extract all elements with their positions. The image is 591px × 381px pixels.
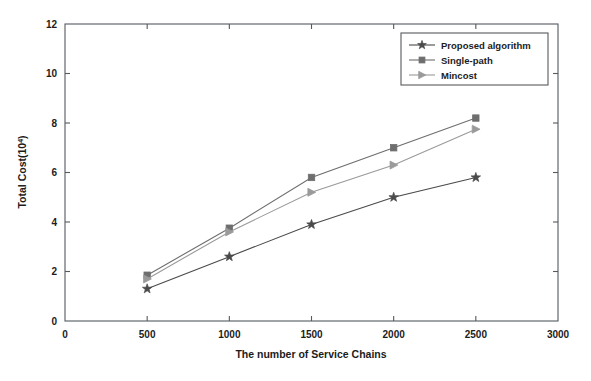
data-point-marker [390, 145, 396, 151]
data-point-marker [419, 57, 425, 63]
y-tick-label: 0 [51, 316, 57, 327]
line-chart: 050010001500200025003000 024681012 The n… [0, 0, 591, 381]
legend-entry-label: Proposed algorithm [441, 40, 531, 51]
x-axis-label: The number of Service Chains [235, 348, 386, 360]
legend-entry-label: Mincost [441, 70, 478, 81]
y-tick-label: 8 [51, 118, 57, 129]
chart-legend[interactable]: Proposed algorithmSingle-pathMincost [401, 33, 548, 85]
x-tick-label: 1500 [300, 329, 323, 340]
x-tick-label: 3000 [547, 329, 570, 340]
y-tick-label: 12 [46, 19, 58, 30]
y-tick-label: 2 [51, 266, 57, 277]
y-axis-label-text: Total Cost(10 [16, 143, 28, 209]
data-point-marker [308, 174, 314, 180]
x-tick-label: 1000 [218, 329, 241, 340]
y-axis-label-tail: ) [16, 135, 28, 139]
data-point-marker [473, 115, 479, 121]
legend-entry-label: Single-path [441, 55, 493, 66]
x-tick-label: 0 [62, 329, 68, 340]
y-tick-label: 10 [46, 68, 58, 79]
x-tick-label: 2000 [383, 329, 406, 340]
x-tick-label: 500 [139, 329, 156, 340]
y-axis-label: Total Cost(104) [16, 135, 28, 208]
svg-text:Total Cost(104): Total Cost(104) [16, 135, 28, 208]
y-tick-label: 6 [51, 167, 57, 178]
x-tick-label: 2500 [465, 329, 488, 340]
chart-figure: 050010001500200025003000 024681012 The n… [0, 0, 591, 381]
y-tick-label: 4 [51, 217, 57, 228]
